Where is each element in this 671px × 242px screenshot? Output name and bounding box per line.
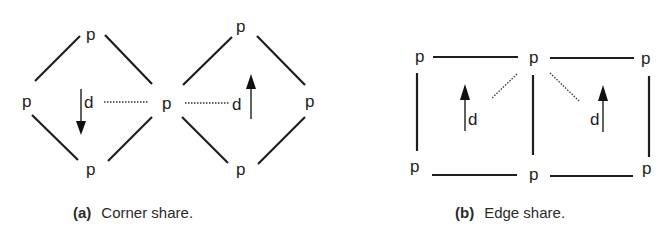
vector-a-right: d [232, 95, 241, 114]
node-b-bottom-middle: p [529, 165, 538, 184]
node-a-left: p [22, 92, 31, 111]
node-a-right: p [305, 92, 314, 111]
arrow-up-icon [246, 74, 256, 89]
caption-b-text: Edge share. [484, 204, 565, 221]
node-a-right-top: p [236, 17, 245, 36]
edge-a-right-top-right [257, 36, 305, 85]
node-b-bottom-left: p [410, 157, 419, 176]
panel-corner-share: p p p p p p p d d (a) Corner share. [22, 17, 314, 221]
edge-a-left-top-right [105, 35, 152, 84]
panel-edge-share: p p p p p p d d (b) Edge share. [410, 47, 651, 221]
edge-a-right-top-left [183, 37, 232, 85]
node-b-top-right: p [641, 49, 650, 68]
vector-b-left: d [468, 110, 477, 129]
vector-a-left: d [84, 93, 93, 112]
node-a-left-bottom: p [86, 160, 95, 179]
edge-a-left-bottom-left [32, 115, 78, 160]
vector-b-right: d [590, 110, 599, 129]
caption-a-text: Corner share. [101, 204, 193, 221]
dotted-link-b-left [491, 74, 517, 99]
edge-a-right-bottom-right [258, 117, 305, 164]
arrow-down-icon [76, 121, 86, 135]
arrow-up-icon [460, 84, 470, 100]
arrow-up-icon [598, 85, 608, 101]
node-b-bottom-right: p [642, 159, 651, 178]
edge-a-left-bottom-right [108, 117, 152, 161]
node-a-right-bottom: p [236, 160, 245, 179]
caption-a: (a) Corner share. [73, 204, 193, 221]
caption-a-tag: (a) [73, 204, 91, 221]
edge-a-left-top-left [35, 36, 80, 81]
node-b-top-middle: p [529, 48, 538, 67]
edge-a-right-bottom-left [182, 117, 228, 163]
dotted-link-b-right [550, 73, 579, 101]
caption-b: (b) Edge share. [455, 204, 565, 221]
node-a-left-top: p [86, 25, 95, 44]
caption-b-tag: (b) [455, 204, 474, 221]
figure-canvas: p p p p p p p d d (a) Corner share. [0, 0, 671, 242]
node-a-shared: p [162, 94, 171, 113]
node-b-top-left: p [415, 47, 424, 66]
